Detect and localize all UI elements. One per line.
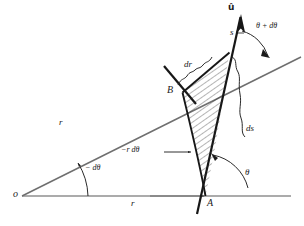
ds-brace [232, 57, 245, 137]
figure-container: o A B r r s û dr ds −r dθ − dθ θ θ + dθ [0, 0, 304, 226]
ds-label: ds [246, 124, 254, 133]
unit-vector-label: û [228, 3, 234, 12]
differential-area [183, 53, 230, 197]
polar-element-diagram [0, 0, 304, 226]
minus-dtheta-label: − dθ [85, 164, 100, 172]
theta-arc [211, 153, 248, 188]
point-a-label: A [207, 198, 213, 208]
theta-plus-dtheta-arc [242, 31, 270, 58]
radius-axis-label: r [131, 199, 135, 208]
arc-length-label: s [230, 28, 234, 37]
minus-r-dtheta-label: −r dθ [121, 146, 139, 154]
origin-label: o [13, 189, 18, 199]
dr-label: dr [184, 60, 192, 69]
radius-ray [22, 57, 301, 196]
theta-label: θ [245, 168, 249, 177]
theta-plus-dtheta-label: θ + dθ [256, 22, 277, 30]
point-b-label: B [167, 85, 173, 95]
radius-ray-label: r [59, 118, 63, 127]
